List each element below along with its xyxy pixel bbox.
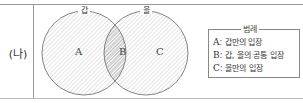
region-a-label: A bbox=[75, 46, 82, 57]
legend-title: 범례 bbox=[241, 23, 259, 34]
legend-box: 범례 A: 갑만의 입장 B: 갑, 을의 공통 입장 C: 을만의 입장 bbox=[208, 29, 300, 78]
set-label-eul: 을 bbox=[140, 4, 152, 15]
set-label-gap: 갑 bbox=[78, 4, 90, 15]
legend-item-c: C: 을만의 입장 bbox=[213, 62, 263, 73]
region-c-label: C bbox=[156, 46, 164, 57]
legend-item-b: B: 갑, 을의 공통 입장 bbox=[213, 49, 284, 60]
legend-item-a: A: 갑만의 입장 bbox=[213, 36, 262, 47]
region-b-label: B bbox=[119, 46, 126, 57]
